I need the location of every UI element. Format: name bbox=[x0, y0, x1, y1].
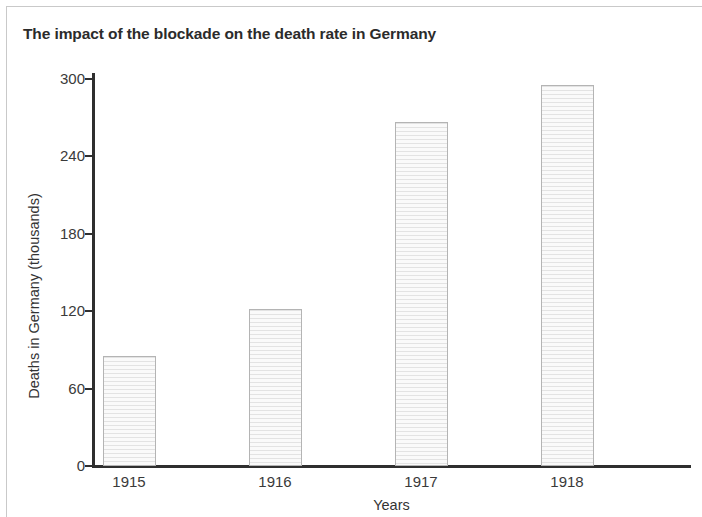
x-axis-line bbox=[92, 465, 691, 468]
y-tick-mark bbox=[85, 155, 93, 157]
y-axis-line bbox=[92, 73, 95, 467]
y-tick-mark bbox=[85, 310, 93, 312]
y-tick-label: 240 bbox=[39, 147, 85, 164]
bar-1915 bbox=[103, 356, 156, 466]
y-tick-label: 300 bbox=[39, 70, 85, 87]
x-axis-title: Years bbox=[92, 497, 691, 513]
plot-area: Deaths in Germany (thousands) 0601201802… bbox=[7, 7, 702, 517]
bar-1917 bbox=[395, 122, 448, 466]
y-tick-mark bbox=[85, 388, 93, 390]
chart-card: The impact of the blockade on the death … bbox=[6, 6, 702, 517]
y-tick-mark bbox=[85, 465, 93, 467]
y-tick-label: 180 bbox=[39, 225, 85, 242]
y-tick-label: 60 bbox=[39, 380, 85, 397]
bar-1918 bbox=[541, 85, 594, 466]
bar-1916 bbox=[249, 309, 302, 466]
y-tick-label: 120 bbox=[39, 302, 85, 319]
x-tick-label-1915: 1915 bbox=[79, 473, 179, 490]
x-tick-label-1916: 1916 bbox=[225, 473, 325, 490]
y-tick-mark bbox=[85, 233, 93, 235]
x-tick-label-1918: 1918 bbox=[517, 473, 617, 490]
y-tick-mark bbox=[85, 78, 93, 80]
x-tick-label-1917: 1917 bbox=[371, 473, 471, 490]
y-tick-label: 0 bbox=[39, 457, 85, 474]
